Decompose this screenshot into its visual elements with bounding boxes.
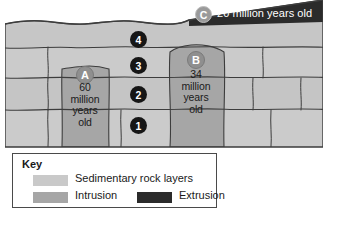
cross-section-svg xyxy=(5,0,323,148)
layer-badge-1: 1 xyxy=(130,117,147,134)
layer-3-band xyxy=(5,47,323,79)
sedimentary-swatch xyxy=(33,175,68,186)
layer-2-band xyxy=(5,77,323,111)
layer-1-band xyxy=(5,109,323,148)
layer-badge-3: 3 xyxy=(130,57,147,74)
feature-badge-b: B xyxy=(187,51,205,69)
key-title: Key xyxy=(22,158,42,170)
key-label-extrusion: Extrusion xyxy=(179,189,225,201)
geologic-cross-section-figure: 4 3 2 1 A B C 60 million years old 34 mi… xyxy=(0,0,341,226)
extrusion-c-age-label: 20 million years old xyxy=(217,7,312,19)
key-label-sedimentary: Sedimentary rock layers xyxy=(75,172,193,184)
extrusion-swatch xyxy=(137,192,172,203)
layer-badge-2: 2 xyxy=(130,86,147,103)
key-label-intrusion: Intrusion xyxy=(75,189,117,201)
cross-section-block: 4 3 2 1 A B C 60 million years old 34 mi… xyxy=(5,0,323,148)
layer-badge-4: 4 xyxy=(130,31,147,48)
feature-badge-a: A xyxy=(76,66,94,84)
key-legend-box: Key Sedimentary rock layers Intrusion Ex… xyxy=(12,153,217,208)
intrusion-swatch xyxy=(33,192,68,203)
feature-badge-c: C xyxy=(195,6,212,23)
